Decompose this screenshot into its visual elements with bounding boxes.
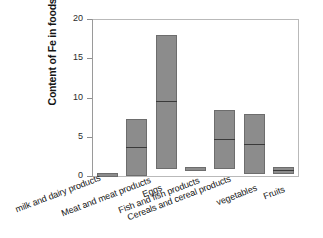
- fe-content-chart: Content of Fe in foods 05101520 milk and…: [0, 0, 323, 238]
- y-axis-tick-label-text: 5: [63, 132, 83, 141]
- y-axis-tick-label: 15: [62, 53, 83, 62]
- y-axis-tick-label-text: 20: [63, 14, 83, 23]
- x-axis-label: Cereals and cereal products: [126, 174, 232, 223]
- median-line: [126, 147, 147, 148]
- plot-area: [93, 19, 298, 176]
- y-axis-tick-label: 5: [62, 132, 83, 141]
- y-axis-title: Content of Fe in foods: [46, 0, 58, 111]
- median-line: [273, 170, 294, 171]
- y-axis-tick-label: 0: [62, 171, 83, 180]
- median-line: [244, 144, 265, 145]
- y-axis-tick-label: 20: [62, 14, 83, 23]
- x-axis-label: vegetables: [215, 183, 258, 208]
- median-line: [214, 139, 235, 140]
- y-axis-tick-label: 10: [62, 93, 83, 102]
- box-range: [97, 173, 118, 177]
- box-range: [185, 167, 206, 171]
- y-axis-tick-label-text: 10: [63, 93, 83, 102]
- x-axis-label: milk and dairy products: [14, 173, 102, 215]
- y-axis-tick-label-text: 15: [63, 53, 83, 62]
- x-axis-label: Eggs: [141, 183, 163, 200]
- y-axis-tick-label-text: 0: [63, 171, 83, 180]
- x-axis-label: Meat and meat products: [60, 175, 152, 218]
- x-axis-label: Fruits: [262, 184, 286, 201]
- median-line: [156, 101, 177, 102]
- x-axis-label: Fish and fish products: [117, 175, 201, 215]
